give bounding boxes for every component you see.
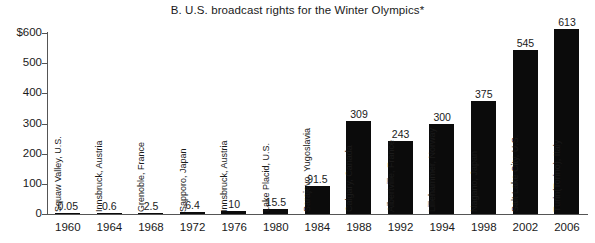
x-axis-year-label: 1988 — [338, 221, 380, 233]
bar-city-label: Innsbruck, Austria — [219, 140, 229, 212]
y-axis-tick-label: 200 — [23, 147, 42, 159]
bar-chart: B. U.S. broadcast rights for the Winter … — [0, 0, 595, 243]
bar-value-label: 613 — [546, 16, 588, 28]
bar-column: 6.4Sapporo, Japan — [172, 33, 214, 214]
bar-column: 243Albertville, France — [380, 33, 422, 214]
bar-column: 2.5Grenoble, France — [130, 33, 172, 214]
bar-column: 375Nagano, Japan — [463, 33, 505, 214]
bar-column: 15.5Lake Placid, U.S. — [255, 33, 297, 214]
bar-value-label: 300 — [421, 111, 463, 123]
plot-area: 0.05Squaw Valley, U.S.0.6Innsbruck, Aust… — [47, 33, 588, 214]
bar-column: 91.5Sarajevo, Yugoslavia — [297, 33, 339, 214]
bar-column: 309Calgary, Canada — [338, 33, 380, 214]
bar-city-label: Turin(Torino), Italy — [552, 140, 562, 212]
y-axis-tick-label: 100 — [23, 177, 42, 189]
bar-city-label: Calgary, Canada — [344, 145, 354, 212]
bar-city-label: Lillehammer, Norway — [427, 128, 437, 212]
bar — [55, 213, 80, 215]
x-axis-year-label: 1968 — [130, 221, 172, 233]
x-axis-year-label: 1960 — [47, 221, 89, 233]
x-axis-line — [47, 214, 588, 215]
bar-value-label: 545 — [505, 37, 547, 49]
bar-column: 10Innsbruck, Austria — [213, 33, 255, 214]
y-axis-tick-label: 500 — [23, 56, 42, 68]
x-axis-year-label: 1972 — [172, 221, 214, 233]
x-axis-year-label: 1976 — [213, 221, 255, 233]
x-axis-year-label: 1964 — [89, 221, 131, 233]
y-axis-tick-label: 0 — [36, 207, 42, 219]
bar-city-label: Lake Placid, U.S. — [261, 143, 271, 212]
bar — [180, 212, 205, 214]
bar-city-label: Salt Lake City, U.S. — [510, 135, 520, 212]
bar-column: 0.05Squaw Valley, U.S. — [47, 33, 89, 214]
bar-city-label: Sapporo, Japan — [178, 148, 188, 212]
x-axis-year-label: 2002 — [505, 221, 547, 233]
chart-title: B. U.S. broadcast rights for the Winter … — [0, 4, 595, 16]
bar-column: 300Lillehammer, Norway — [421, 33, 463, 214]
y-axis-tick-label: $600 — [16, 26, 42, 38]
bar-city-label: Grenoble, France — [136, 142, 146, 212]
bar-column: 613Turin(Torino), Italy — [546, 33, 588, 214]
x-axis-year-label: 1984 — [297, 221, 339, 233]
x-axis-year-label: 1992 — [380, 221, 422, 233]
bar-city-label: Squaw Valley, U.S. — [53, 136, 63, 212]
x-axis-year-label: 1980 — [255, 221, 297, 233]
bar-value-label: 309 — [338, 108, 380, 120]
bar-city-label: Innsbruck, Austria — [94, 140, 104, 212]
bar-column: 545Salt Lake City, U.S. — [505, 33, 547, 214]
bar-city-label: Sarajevo, Yugoslavia — [302, 128, 312, 212]
bar-city-label: Albertville, France — [386, 140, 396, 212]
y-axis-tick-mark — [42, 214, 47, 215]
x-axis-year-label: 2006 — [546, 221, 588, 233]
bar — [97, 213, 122, 215]
x-axis-year-label: 1994 — [421, 221, 463, 233]
bar — [138, 213, 163, 215]
bar-column: 0.6Innsbruck, Austria — [89, 33, 131, 214]
bar-value-label: 375 — [463, 88, 505, 100]
y-axis-tick-label: 400 — [23, 86, 42, 98]
bar-city-label: Nagano, Japan — [469, 151, 479, 212]
bar-value-label: 243 — [380, 128, 422, 140]
x-axis-year-label: 1998 — [463, 221, 505, 233]
y-axis-tick-label: 300 — [23, 117, 42, 129]
